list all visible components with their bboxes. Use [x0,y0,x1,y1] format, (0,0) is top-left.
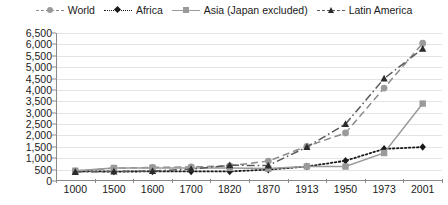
gridline [57,56,442,57]
x-axis-tick-mark [326,179,327,183]
legend-marker-circle-icon [36,5,64,16]
y-axis-tick-label: 2,500 [0,119,52,130]
legend-marker-glyph [114,6,121,13]
x-axis-tick-mark [442,179,443,183]
gridline [57,158,442,159]
x-axis-tick-label: 1820 [218,184,241,195]
legend-item-latin-america[interactable]: Latin America [317,5,413,16]
x-axis-tick-mark [95,179,96,183]
x-axis-tick-mark [133,179,134,183]
x-axis-tick-label: 1600 [141,184,164,195]
x-axis-tick-label: 1000 [64,184,87,195]
gridline [57,90,442,91]
legend-item-asia-japan-excluded[interactable]: Asia (Japan excluded) [172,5,308,16]
x-axis-tick-mark [249,179,250,183]
legend-item-africa[interactable]: Africa [104,5,163,16]
gridline [57,147,442,148]
y-axis-tick-label: 3,500 [0,96,52,107]
gridline [57,124,442,125]
x-axis-tick-label: 1913 [295,184,318,195]
legend-item-world[interactable]: World [36,5,95,16]
x-axis-tick-label: 1870 [257,184,280,195]
legend-marker-diamond-icon [104,5,132,16]
legend-marker-square-icon [172,5,200,16]
legend-marker-triangle-icon [317,5,345,16]
legend-label: World [68,5,95,16]
x-axis-tick-label: 1700 [179,184,202,195]
y-axis-tick-label: 6,000 [0,39,52,50]
y-axis-tick-label: 2,000 [0,130,52,141]
x-axis-tick-label: 1950 [334,184,357,195]
legend-marker-glyph [183,7,189,13]
x-axis-tick-label: 1500 [102,184,125,195]
y-axis-tick-label: 4,000 [0,85,52,96]
x-axis-tick-mark [210,179,211,183]
y-axis-tick-label: 5,000 [0,62,52,73]
gridline [57,113,442,114]
y-axis-tick-label: 6,500 [0,28,52,39]
gridline [57,101,442,102]
y-axis-tick-label: 4,500 [0,73,52,84]
y-axis-tick-label: 1,500 [0,142,52,153]
x-axis-tick-mark [365,179,366,183]
legend-marker-glyph [328,7,334,13]
gridline [57,44,442,45]
x-axis-tick-mark [288,179,289,183]
legend-label: Asia (Japan excluded) [204,5,308,16]
y-axis-tick-label: 3,000 [0,107,52,118]
gridline [57,67,442,68]
legend-label: Latin America [349,5,413,16]
legend-label: Africa [136,5,163,16]
gridline [57,79,442,80]
chart-legend: WorldAfricaAsia (Japan excluded)Latin Am… [0,2,448,18]
y-axis: 05001,0001,5002,0002,5003,0003,5004,0004… [0,33,52,181]
legend-marker-glyph [47,7,53,13]
gridlines [57,33,442,180]
plot-area [56,33,442,181]
gridline [57,170,442,171]
x-axis-tick-mark [172,179,173,183]
x-axis-tick-mark [56,179,57,183]
y-axis-tick-label: 500 [0,164,52,175]
y-axis-tick-label: 0 [0,176,52,187]
y-axis-tick-label: 5,500 [0,51,52,62]
gridline [57,135,442,136]
gdp-per-capita-line-chart: WorldAfricaAsia (Japan excluded)Latin Am… [0,0,448,205]
x-axis-tick-mark [403,179,404,183]
x-axis-tick-label: 2001 [411,184,434,195]
x-axis: 1000150016001700182018701913195019732001 [56,183,442,201]
gridline [57,33,442,34]
y-axis-tick-label: 1,000 [0,153,52,164]
x-axis-tick-label: 1973 [372,184,395,195]
